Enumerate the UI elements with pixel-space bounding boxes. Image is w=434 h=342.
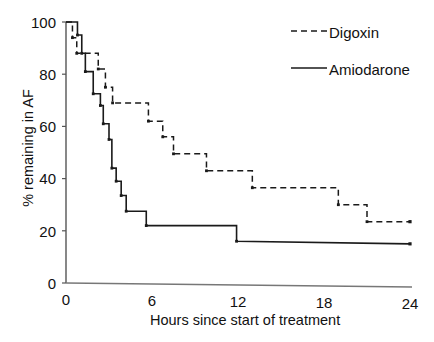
x-tick-label-0: 0 [50, 291, 82, 308]
y-tick-label-0: 0 [8, 275, 56, 292]
series-group [66, 22, 412, 245]
y-tick-label-100: 100 [8, 14, 56, 31]
x-tick-label-24: 24 [394, 295, 426, 312]
survival-curve-chart: 100 80 60 40 20 0 0 6 12 18 24 Hours sin… [0, 0, 434, 342]
x-axis-line [66, 283, 412, 287]
x-tick-label-18: 18 [308, 294, 340, 311]
series-line-amiodarone [66, 22, 410, 244]
x-tick-label-12: 12 [222, 293, 254, 310]
legend-label-digoxin: Digoxin [329, 24, 379, 41]
x-axis-title: Hours since start of treatment [150, 312, 340, 328]
series-line-digoxin [66, 22, 410, 222]
x-tick-label-6: 6 [136, 292, 168, 309]
y-axis-title: % remaining in AF [20, 58, 36, 238]
legend-label-amiodarone: Amiodarone [329, 61, 410, 78]
